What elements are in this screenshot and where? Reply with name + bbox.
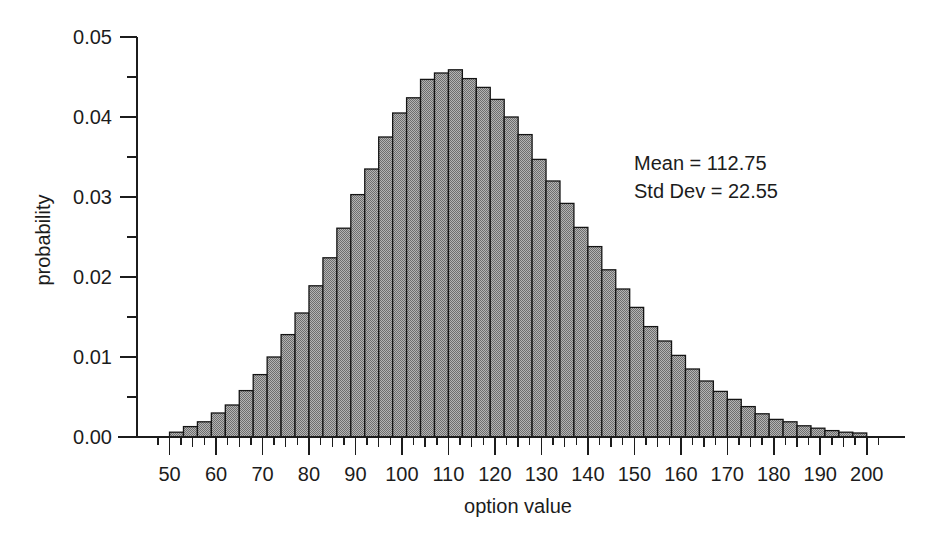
- x-axis-ticks: [158, 437, 878, 455]
- histogram-bar: [281, 335, 295, 437]
- histogram-bar: [197, 422, 211, 437]
- x-tick-label: 60: [205, 463, 227, 485]
- histogram-bar: [741, 407, 755, 437]
- y-tick-label: 0.04: [73, 106, 112, 128]
- x-tick-label: 180: [757, 463, 790, 485]
- x-tick-label: 140: [571, 463, 604, 485]
- histogram-bar: [672, 355, 686, 437]
- histogram-bar: [546, 181, 560, 437]
- histogram-bar: [309, 286, 323, 437]
- histogram-bar: [267, 357, 281, 437]
- x-tick-label: 200: [850, 463, 883, 485]
- histogram-bar: [323, 258, 337, 437]
- histogram-bar: [239, 391, 253, 437]
- x-tick-label: 100: [385, 463, 418, 485]
- histogram-bar: [755, 414, 769, 437]
- annotation-stddev: Std Dev = 22.55: [634, 180, 778, 202]
- histogram-bar: [225, 405, 239, 437]
- histogram-bar: [560, 203, 574, 437]
- histogram-bar: [253, 375, 267, 437]
- histogram-bar: [490, 99, 504, 437]
- y-tick-label: 0.01: [73, 346, 112, 368]
- histogram-bar: [407, 98, 421, 437]
- histogram-bar: [337, 228, 351, 437]
- histogram-bar: [504, 117, 518, 437]
- histogram-figure: 0.000.010.020.030.040.05 506070809010011…: [0, 0, 926, 537]
- histogram-bar: [699, 381, 713, 437]
- x-tick-label: 80: [298, 463, 320, 485]
- histogram-bar: [379, 137, 393, 437]
- x-axis-title: option value: [464, 495, 572, 517]
- x-tick-label: 190: [804, 463, 837, 485]
- histogram-bar: [462, 79, 476, 437]
- y-axis-tick-labels: 0.000.010.020.030.040.05: [73, 26, 112, 448]
- histogram-bar: [616, 289, 630, 437]
- histogram-bars: [170, 70, 867, 437]
- histogram-bar: [811, 428, 825, 437]
- histogram-bar: [211, 413, 225, 437]
- y-tick-label: 0.03: [73, 186, 112, 208]
- x-tick-label: 90: [344, 463, 366, 485]
- y-tick-label: 0.02: [73, 266, 112, 288]
- x-tick-label: 150: [618, 463, 651, 485]
- y-tick-label: 0.00: [73, 426, 112, 448]
- histogram-bar: [727, 399, 741, 437]
- histogram-bar: [448, 70, 462, 437]
- histogram-bar: [713, 391, 727, 437]
- histogram-bar: [783, 422, 797, 437]
- histogram-bar: [476, 87, 490, 437]
- histogram-bar: [685, 369, 699, 437]
- histogram-bar: [183, 427, 197, 437]
- histogram-bar: [434, 73, 448, 437]
- annotation-mean: Mean = 112.75: [634, 152, 767, 174]
- histogram-bar: [518, 135, 532, 437]
- y-axis-ticks: [120, 37, 137, 437]
- x-tick-label: 110: [432, 463, 464, 485]
- histogram-bar: [602, 270, 616, 437]
- x-tick-label: 50: [158, 463, 180, 485]
- histogram-bar: [421, 79, 435, 437]
- histogram-bar: [532, 159, 546, 437]
- x-tick-label: 70: [251, 463, 273, 485]
- x-axis-tick-labels: 5060708090100110120130140150160170180190…: [158, 463, 883, 485]
- histogram-bar: [574, 227, 588, 437]
- x-tick-label: 160: [664, 463, 697, 485]
- y-tick-label: 0.05: [73, 26, 112, 48]
- histogram-bar: [295, 313, 309, 437]
- histogram-bar: [393, 113, 407, 437]
- chart-canvas: 0.000.010.020.030.040.05 506070809010011…: [0, 0, 926, 537]
- x-tick-label: 120: [478, 463, 511, 485]
- x-tick-label: 170: [711, 463, 744, 485]
- histogram-bar: [658, 341, 672, 437]
- histogram-bar: [351, 195, 365, 437]
- histogram-bar: [797, 426, 811, 437]
- y-axis-title: probability: [32, 194, 54, 285]
- histogram-bar: [644, 327, 658, 437]
- histogram-bar: [630, 307, 644, 437]
- histogram-bar: [825, 431, 839, 437]
- x-tick-label: 130: [525, 463, 558, 485]
- histogram-bar: [365, 169, 379, 437]
- histogram-bar: [588, 247, 602, 437]
- histogram-bar: [769, 419, 783, 437]
